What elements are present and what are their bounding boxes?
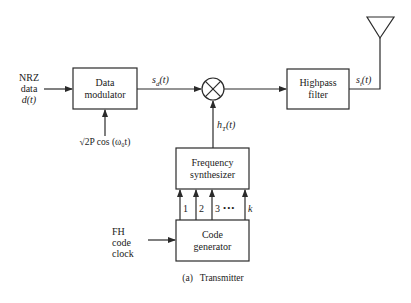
- nrz-label-line2: data: [14, 83, 44, 94]
- antenna-icon: [367, 17, 394, 38]
- figure-caption: (a) Transmitter: [172, 273, 254, 284]
- code-line-3-label: 3: [215, 203, 220, 214]
- st-signal-label: st(t): [356, 74, 371, 90]
- code-generator-label-1: Code: [202, 229, 223, 241]
- fh-code-clock-label: FH code clock: [112, 226, 140, 259]
- nrz-label-line1: NRZ: [14, 72, 44, 83]
- highpass-filter-block: Highpass filter: [287, 69, 349, 109]
- data-modulator-block: Data modulator: [73, 68, 137, 109]
- highpass-filter-label-2: filter: [308, 89, 327, 101]
- code-generator-label-2: generator: [194, 241, 232, 253]
- highpass-filter-label-1: Highpass: [299, 77, 336, 89]
- data-modulator-label-2: modulator: [84, 89, 125, 101]
- ht-signal-label: hT(t): [217, 119, 235, 135]
- code-line-2-label: 2: [199, 203, 204, 214]
- fh-clock-line2: code: [112, 237, 140, 248]
- fh-clock-line3: clock: [112, 248, 140, 259]
- st-arg: (t): [362, 74, 371, 85]
- frequency-synthesizer-label-2: synthesizer: [190, 169, 235, 181]
- sd-arg: (t): [159, 74, 168, 85]
- code-line-1-label: 1: [183, 203, 188, 214]
- ht-arg: (t): [226, 119, 235, 130]
- fh-clock-line1: FH: [112, 226, 140, 237]
- frequency-synthesizer-label-1: Frequency: [191, 157, 233, 169]
- sd-signal-label: sd(t): [152, 74, 169, 90]
- code-generator-block: Code generator: [176, 220, 249, 261]
- code-line-k-label: k: [248, 203, 252, 214]
- frequency-synthesizer-block: Frequency synthesizer: [176, 148, 249, 189]
- data-modulator-label-1: Data: [96, 77, 115, 89]
- nrz-label-line3: d(t): [14, 94, 44, 105]
- code-line-ellipsis: •••: [223, 203, 235, 214]
- nrz-data-input-label: NRZ data d(t): [14, 72, 44, 105]
- carrier-input-label: √2P cos (ω₀t): [72, 137, 138, 148]
